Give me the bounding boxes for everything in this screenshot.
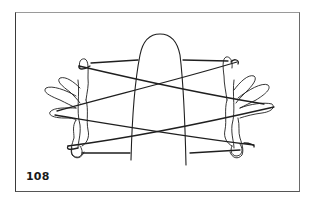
figure-number: 108 xyxy=(26,170,50,183)
string-strand xyxy=(68,107,274,146)
center-finger-outline xyxy=(131,34,186,165)
string-strand xyxy=(183,60,228,61)
string-strand xyxy=(91,60,138,63)
string-strand xyxy=(190,150,240,153)
string-strand xyxy=(55,115,254,145)
center-finger-icon xyxy=(131,34,186,165)
string-strand xyxy=(79,66,264,104)
